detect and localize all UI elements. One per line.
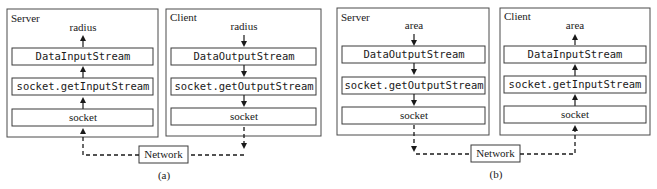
diagram-caption: (b)	[490, 168, 503, 181]
network-label: Network	[144, 148, 183, 160]
data-input-stream-label: DataInputStream	[36, 50, 131, 62]
diagram-b-client-panel: Client area DataInputStream socket.getIn…	[500, 8, 650, 135]
data-output-stream-label: DataOutputStream	[193, 50, 294, 62]
socket-label: socket	[69, 111, 97, 123]
client-value-label: radius	[231, 20, 258, 32]
server-value-label: radius	[70, 21, 97, 33]
down-arrow-icon	[411, 146, 417, 152]
client-value-label: area	[566, 19, 584, 31]
client-panel-title: Client	[504, 10, 531, 22]
diagram-a-server-panel: Server radius DataInputStream socket.get…	[7, 9, 158, 137]
client-panel-title: Client	[170, 11, 197, 23]
socket-get-input-stream-label: socket.getInputStream	[17, 80, 150, 92]
socket-get-output-stream-label: socket.getOutputStream	[344, 79, 483, 91]
server-value-label: area	[405, 19, 423, 31]
diagram-b-server-panel: Server area DataOutputStream socket.getO…	[337, 8, 489, 135]
socket-stream-diagrams: Server radius DataInputStream socket.get…	[0, 0, 657, 189]
diagram-b: Server area DataOutputStream socket.getO…	[337, 8, 650, 181]
socket-label: socket	[400, 109, 428, 121]
diagram-a-client-panel: Client radius DataOutputStream socket.ge…	[166, 9, 321, 136]
diagram-caption: (a)	[158, 169, 171, 182]
socket-label: socket	[230, 110, 258, 122]
server-panel-title: Server	[11, 12, 40, 24]
data-input-stream-label: DataInputStream	[528, 48, 623, 60]
socket-label: socket	[561, 108, 589, 120]
data-output-stream-label: DataOutputStream	[363, 48, 464, 60]
server-panel-title: Server	[341, 11, 370, 23]
socket-get-input-stream-label: socket.getInputStream	[509, 78, 642, 90]
down-arrow-icon	[241, 143, 247, 149]
socket-get-output-stream-label: socket.getOutputStream	[174, 80, 313, 92]
network-label: Network	[476, 147, 515, 159]
diagram-a: Server radius DataInputStream socket.get…	[7, 9, 321, 182]
